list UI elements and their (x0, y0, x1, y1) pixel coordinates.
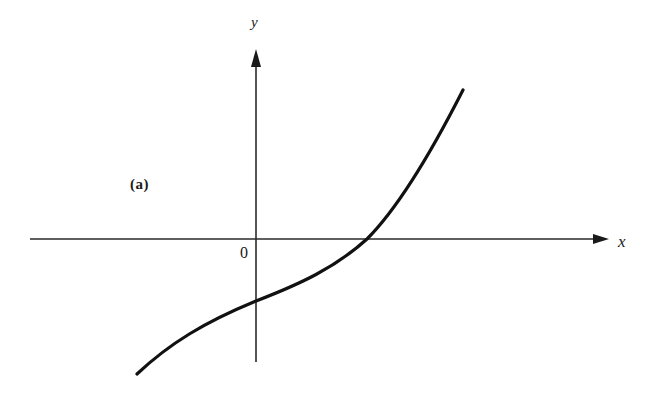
y-axis-label: y (251, 14, 258, 31)
origin-label: 0 (240, 244, 248, 262)
x-axis-arrow-icon (593, 234, 609, 244)
graph-canvas (0, 0, 664, 394)
y-axis-arrow-icon (251, 49, 261, 67)
function-graph-figure: (a) y x 0 (0, 0, 664, 394)
function-curve (137, 90, 463, 374)
panel-label: (a) (130, 176, 149, 193)
x-axis-label: x (618, 232, 626, 252)
